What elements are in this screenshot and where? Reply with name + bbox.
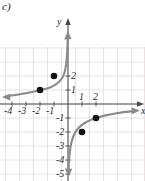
x-tick-label-1: 1 — [79, 92, 84, 102]
point-neg2-1 — [37, 87, 44, 94]
x-tick-label-neg1: -1 — [46, 106, 54, 116]
point-2-neg1 — [93, 115, 100, 122]
y-axis-arrow — [65, 18, 70, 25]
y-tick-label-1: 1 — [71, 85, 76, 95]
curve-arrow-left — [2, 94, 11, 101]
curve-arrow-down — [65, 169, 72, 177]
part-label: c) — [2, 0, 11, 12]
x-tick-label-2: 2 — [93, 92, 98, 102]
point-1-neg2 — [79, 129, 86, 136]
graph-svg — [0, 14, 145, 181]
x-tick-label-neg2: -2 — [32, 106, 40, 116]
coordinate-plane: y x -4 -3 -2 -1 1 2 2 1 -1 -2 -3 -4 -5 — [0, 14, 145, 181]
y-axis-label: y — [57, 17, 61, 27]
y-tick-label-neg4: -4 — [56, 155, 64, 165]
y-tick-label-neg1: -1 — [56, 113, 64, 123]
y-tick-label-neg5: -5 — [56, 169, 64, 179]
y-tick-label-2: 2 — [71, 71, 76, 81]
graph-figure: c) — [0, 0, 145, 181]
curve-arrow-right — [132, 108, 140, 115]
x-tick-label-neg3: -3 — [18, 106, 26, 116]
point-neg1-2 — [51, 73, 58, 80]
y-tick-label-neg3: -3 — [56, 141, 64, 151]
y-tick-label-neg2: -2 — [56, 127, 64, 137]
curve-arrow-up — [64, 31, 71, 40]
x-axis-label: x — [141, 106, 145, 116]
x-tick-label-neg4: -4 — [4, 106, 12, 116]
